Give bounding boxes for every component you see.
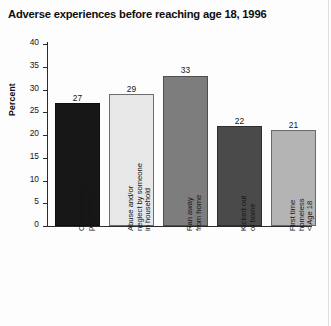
y-axis-tick-label: 15 [30,152,39,160]
bar-value-label: 22 [235,117,244,125]
bar-value-label: 33 [181,66,190,74]
y-axis-tick-label: 10 [30,175,39,183]
x-axis-category-label-line: Kicked out [240,196,249,231]
bar-value-label: 27 [73,94,82,102]
x-axis-category-label: Kicked outof home [240,196,257,231]
x-axis-category-label-line: of home [248,196,257,231]
page-edge-rule [328,0,329,326]
chart-title: Adverse experiences before reaching age … [8,8,266,20]
y-axis-tick-label: 5 [34,197,39,205]
y-axis-tick-label: 40 [30,38,39,46]
bar-value-label: 29 [127,85,136,93]
y-axis-tick-label: 25 [30,106,39,114]
bar-value-label: 21 [289,121,298,129]
y-axis-tick-label: 0 [34,220,39,228]
x-axis-category-label-line: in household [144,163,153,231]
x-axis-category-label-line: Ran away [186,195,195,231]
bar-chart-figure: Adverse experiences before reaching age … [0,0,331,326]
x-axis-category-label: First timehomeless< Age 18 [289,199,315,232]
x-axis-category-label-line: placement [86,187,95,231]
x-axis-category-label: Abuse and/orneglect by someonein househo… [127,163,153,231]
y-axis-tick-label: 30 [30,84,39,92]
y-axis-tick-label: 20 [30,129,39,137]
y-axis-tick-mark [43,226,47,227]
x-axis-category-label-line: Out-of-Home [78,187,87,231]
y-axis-tick-label: 35 [30,61,39,69]
x-axis-category-label-line: from home [194,195,203,231]
y-axis-title: Percent [7,83,17,116]
x-axis-category-label: Ran awayfrom home [186,195,203,231]
x-axis-category-label: Out-of-Homeplacement [78,187,95,231]
x-axis-category-label-line: < Age 18 [306,199,315,232]
